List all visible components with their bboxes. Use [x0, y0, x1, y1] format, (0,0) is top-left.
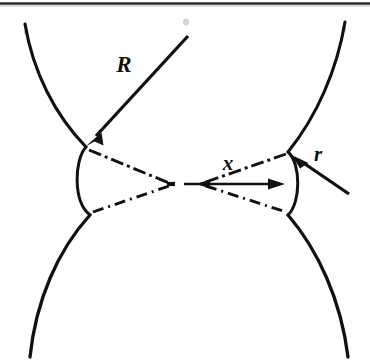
page-background [0, 0, 370, 360]
sphere-meniscus-diagram: R r x [0, 0, 370, 360]
figure-container: R r x [0, 0, 370, 360]
label-bridge-half-width: x [222, 151, 234, 175]
label-meniscus-radius: r [314, 142, 323, 166]
label-sphere-radius: R [115, 52, 131, 77]
scan-smudge-center [183, 19, 189, 26]
